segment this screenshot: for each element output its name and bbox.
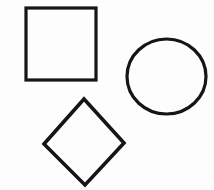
shape-canvas xyxy=(0,0,214,190)
square-icon xyxy=(26,8,96,80)
shapes-illustration xyxy=(0,0,214,190)
circle-icon xyxy=(127,39,206,114)
diamond-icon xyxy=(44,99,124,185)
